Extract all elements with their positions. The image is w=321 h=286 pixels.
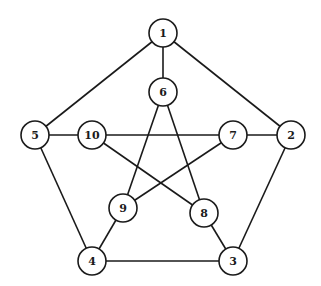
petersen-graph-diagram: 12345678910 [0, 0, 321, 286]
edge-5-1 [35, 33, 163, 135]
edge-8-10 [92, 135, 204, 213]
node-label: 8 [200, 207, 208, 220]
node-1: 1 [149, 19, 177, 47]
node-4: 4 [78, 247, 106, 275]
node-label: 3 [229, 255, 237, 268]
node-label: 7 [229, 129, 237, 142]
node-6: 6 [149, 78, 177, 106]
node-label: 4 [88, 255, 96, 268]
node-8: 8 [190, 199, 218, 227]
edge-7-9 [123, 135, 233, 208]
node-2: 2 [277, 121, 305, 149]
node-label: 6 [159, 86, 167, 99]
node-label: 1 [159, 27, 167, 40]
node-label: 5 [31, 129, 39, 142]
edge-1-2 [163, 33, 291, 135]
node-10: 10 [78, 121, 106, 149]
node-5: 5 [21, 121, 49, 149]
edge-4-5 [35, 135, 92, 261]
node-label: 9 [119, 202, 127, 215]
node-3: 3 [219, 247, 247, 275]
node-label: 2 [287, 129, 295, 142]
edge-6-9 [123, 92, 163, 208]
node-9: 9 [109, 194, 137, 222]
node-7: 7 [219, 121, 247, 149]
edge-2-3 [233, 135, 291, 261]
edges-layer [35, 33, 291, 261]
node-label: 10 [84, 129, 100, 142]
edge-6-8 [163, 92, 204, 213]
